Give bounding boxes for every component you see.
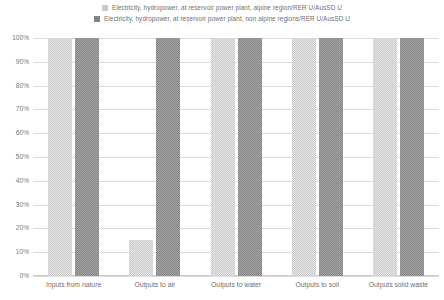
x-axis-labels: Inputs from natureOutputs to airOutputs … <box>33 280 439 289</box>
bar-group <box>195 38 276 276</box>
bar[interactable] <box>292 38 316 276</box>
bar-groups <box>33 38 439 276</box>
y-axis-tick-label: 90% <box>16 58 29 66</box>
bar-group <box>358 38 439 276</box>
x-axis-category-label: Outputs to air <box>114 280 195 289</box>
bar[interactable] <box>156 38 180 276</box>
x-axis-category-label: Inputs from nature <box>33 280 114 289</box>
x-axis-category-label: Outputs to soil <box>277 280 358 289</box>
legend-item-series-b[interactable]: Electricity, hydropower, at reservoir po… <box>94 15 350 23</box>
y-axis-labels: 100%90%80%70%60%50%40%30%20%10%0% <box>0 38 29 276</box>
legend-swatch-series-b <box>94 16 100 22</box>
y-axis-tick-label: 100% <box>12 34 29 42</box>
legend-label-series-a: Electricity, hydropower, at reservoir po… <box>112 4 342 12</box>
legend-label-series-b: Electricity, hydropower, at reservoir po… <box>104 15 350 23</box>
y-axis-tick-label: 30% <box>16 201 29 209</box>
legend-item-series-a[interactable]: Electricity, hydropower, at reservoir po… <box>102 4 342 12</box>
bar[interactable] <box>373 38 397 276</box>
bar-group <box>114 38 195 276</box>
bar-chart: Electricity, hydropower, at reservoir po… <box>0 0 444 300</box>
bar[interactable] <box>48 38 72 276</box>
x-axis-category-label: Outputs to water <box>195 280 276 289</box>
x-axis-category-label: Outputs solid waste <box>358 280 439 289</box>
bar-group <box>277 38 358 276</box>
bar[interactable] <box>75 38 99 276</box>
bar[interactable] <box>211 38 235 276</box>
bar[interactable] <box>129 240 153 276</box>
legend-swatch-series-a <box>102 5 108 11</box>
y-axis-tick-label: 10% <box>16 248 29 256</box>
y-axis-tick-label: 20% <box>16 224 29 232</box>
y-axis-tick-label: 40% <box>16 177 29 185</box>
y-axis-tick-label: 0% <box>19 272 29 280</box>
bar[interactable] <box>238 38 262 276</box>
chart-legend: Electricity, hydropower, at reservoir po… <box>0 4 444 23</box>
y-axis-tick-label: 80% <box>16 82 29 90</box>
bar[interactable] <box>319 38 343 276</box>
bar-group <box>33 38 114 276</box>
y-axis-tick-label: 50% <box>16 153 29 161</box>
gridline <box>33 276 439 277</box>
bar[interactable] <box>400 38 424 276</box>
y-axis-tick-label: 60% <box>16 129 29 137</box>
y-axis-tick-label: 70% <box>16 105 29 113</box>
